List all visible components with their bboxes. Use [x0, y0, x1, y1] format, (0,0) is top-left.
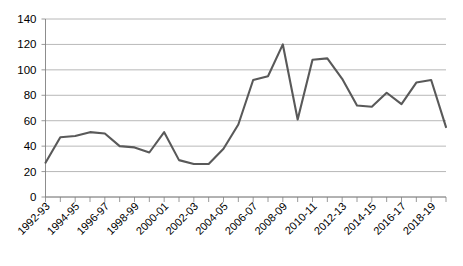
chart-canvas: 020406080100120140 1992-931994-951996-97… — [0, 0, 463, 266]
y-axis-tick-label: 40 — [24, 140, 37, 152]
y-axis-tick-label: 20 — [24, 166, 37, 178]
y-axis-tick-label: 80 — [24, 89, 37, 101]
line-chart: 020406080100120140 1992-931994-951996-97… — [0, 0, 463, 266]
y-axis-tick-label: 140 — [17, 13, 36, 25]
y-axis-tick-label: 0 — [30, 191, 36, 203]
y-axis-tick-label: 60 — [24, 115, 37, 127]
y-axis-tick-label: 120 — [17, 38, 36, 50]
y-axis-tick-label: 100 — [17, 64, 36, 76]
